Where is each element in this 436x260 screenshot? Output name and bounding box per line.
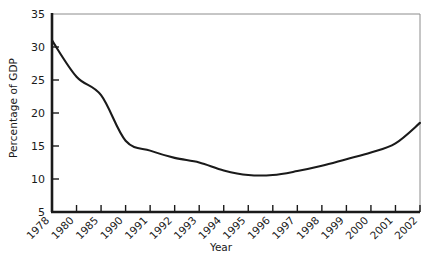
x-tick-label: 2002 [392, 214, 419, 241]
y-tick-label: 30 [31, 41, 45, 54]
x-tick-label: 1995 [220, 214, 247, 241]
y-axis-tick-labels: 5101520253035 [31, 8, 45, 219]
x-tick-label: 1992 [147, 214, 174, 241]
x-axis-title: Year [0, 241, 436, 253]
x-tick-label: 1993 [171, 214, 198, 241]
x-tick-label: 1991 [122, 214, 149, 241]
data-series-line [52, 40, 420, 175]
y-tick-label: 15 [31, 140, 45, 153]
chart-figure: Percentage of GDP 5101520253035 19781980… [0, 0, 436, 260]
x-tick-label: 1985 [73, 214, 100, 241]
x-tick-label: 1996 [245, 214, 273, 242]
x-tick-label: 2000 [343, 214, 370, 241]
x-tick-label: 1999 [318, 214, 345, 241]
x-tick-label: 1994 [196, 214, 224, 242]
x-tick-label: 1990 [98, 214, 125, 241]
plot-frame [51, 13, 420, 212]
x-tick-label: 2001 [367, 214, 394, 241]
x-tick-label: 1980 [49, 214, 76, 241]
x-axis-tick-labels: 1978198019851990199119921993199419951996… [24, 214, 419, 242]
y-tick-label: 35 [31, 8, 45, 21]
x-tick-label: 1978 [24, 214, 51, 241]
x-axis-title-text: Year [204, 241, 232, 253]
y-tick-label: 25 [31, 74, 45, 87]
y-tick-label: 10 [31, 173, 45, 186]
line-chart-plot: 5101520253035 19781980198519901991199219… [0, 0, 436, 260]
x-tick-label: 1998 [294, 214, 321, 241]
y-tick-label: 20 [31, 107, 45, 120]
x-tick-label: 1997 [269, 214, 296, 241]
